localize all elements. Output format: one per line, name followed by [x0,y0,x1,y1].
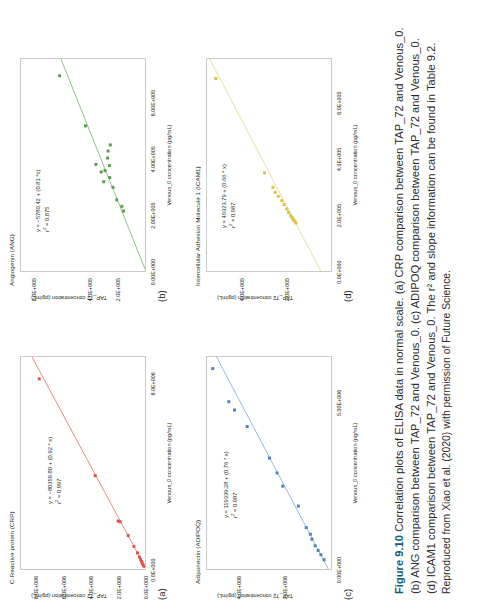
y-tick-label: 4.0E+005 [239,278,245,301]
panel-d: (d) Intercellular Adhesion Molecule 1 (I… [192,6,378,302]
data-point [323,558,326,561]
data-point [297,505,300,508]
panel-a-equation-block: y = −80359.80 + (0.92 * x) r2 = 0.997 [46,437,64,504]
panel-b-r2: r2 = 0.875 [42,170,51,232]
data-point [211,367,214,370]
data-point [108,176,111,179]
data-point [84,124,87,127]
data-point [276,471,279,474]
data-point [309,533,312,536]
data-point [246,425,249,428]
panel-b-x-axis-title: Venous_0 concentration (pg/mL) [166,58,172,272]
panel-c-r2: r2 = 0.987 [230,451,239,518]
panel-c-x-ticks: 0.00E+0005.00E+006 [334,356,348,570]
panel-d-x-ticks: 0.0E+0002.0E+0054.0E+0056.0E+005 [334,58,348,272]
x-tick-label: 2.0E+005 [336,192,342,240]
data-point [112,186,115,189]
panel-a-x-ticks: 0.0E+0008.0E+006 [148,356,162,570]
x-tick-label: 0.00E+000 [336,546,342,594]
data-point [272,186,275,189]
figure-number: Figure 9.10 [393,535,405,594]
data-point [58,74,61,77]
panel-b-plot-area [20,58,146,272]
panel-a-scatter-svg [21,357,145,569]
panel-c-equation-block: y = 119339.28 + (0.76 * x) r2 = 0.987 [222,451,240,518]
data-point [305,526,308,529]
data-point [289,214,292,217]
data-point [108,164,111,167]
y-tick-label: 8.0E+006 [33,576,39,599]
data-point [132,545,135,548]
panel-c-equation: y = 119339.28 + (0.76 * x) [222,451,230,518]
data-point [127,534,130,537]
y-tick-label: 4.0E+006 [88,576,94,599]
caption-line-2: (d) ICAM1 comparison between TAP_72 and … [424,10,440,594]
data-point [117,520,120,523]
caption-text-0: Correlation plots of ELISA data in norma… [393,27,405,531]
panel-d-r2: r2 = 0.987 [228,164,237,228]
data-point [94,474,97,477]
data-point [319,553,322,556]
data-point [94,163,97,166]
panel-a-x-axis-title: Venous_0 concentration (pg/mL) [166,356,172,570]
y-tick-label: 2.0E+006 [282,576,288,599]
data-point [115,198,118,201]
panel-a-equation: y = −80359.80 + (0.92 * x) [46,437,54,504]
data-point [107,150,110,153]
data-point [280,199,283,202]
panel-b-x-ticks: 0.00E+0002.00E+0054.00E+0056.00E+005 [148,58,162,272]
panel-d-x-axis-title: Venous_0 concentration (pg/mL) [352,58,358,272]
y-tick-label: 4.0E+005 [87,278,93,301]
data-point [310,538,313,541]
data-point [104,169,107,172]
data-point [283,203,286,206]
data-point [268,457,271,460]
panel-c-y-ticks: 4.0E+0062.0E+006 [206,572,332,608]
panel-a-letter: (a) [156,588,167,600]
panel-b: (b) Angiogenin (ANG) TAP_72 concentratio… [6,6,192,302]
data-point [214,77,217,80]
panel-b-scatter-svg [21,59,145,271]
panel-c-title: Adiponectin (ADIPOQ) [194,520,201,584]
panel-b-letter: (b) [156,290,167,302]
x-tick-label: 0.0E+000 [336,248,342,296]
data-point [136,551,139,554]
panel-d-title: Intercellular Adhesion Molecule 1 (ICAM1… [194,166,201,286]
data-point [263,171,266,174]
y-tick-label: 2.0E+006 [116,576,122,599]
caption-credit: Reproduced from Xiao et al. (2020) with … [440,10,455,594]
y-tick-label: 2.0E+005 [115,278,121,301]
y-tick-label: 8.0E+005 [31,278,37,301]
data-point [109,143,112,146]
data-point [317,549,320,552]
x-tick-label: 6.0E+005 [336,79,342,127]
panel-a-r2: r2 = 0.997 [54,437,63,504]
data-point [285,208,288,211]
y-tick-label: 0.0E+000 [143,576,149,599]
figure-page: (a) C-Reactive protein (CRP) TAP_72 conc… [0,0,496,608]
x-tick-label: 4.00E+005 [150,135,156,183]
data-point [38,377,41,380]
data-point [102,180,105,183]
regression-line [61,59,145,271]
data-point [106,157,109,160]
panel-a-plot-area [20,356,146,570]
panel-d-y-ticks: 4.0E+0052.0E+005 [206,274,332,332]
panel-b-equation-block: y = −5780.42 + (0.81 *x) r2 = 0.875 [34,170,52,232]
caption-line-0: Figure 9.10 Correlation plots of ELISA d… [392,10,408,594]
x-tick-label: 5.00E+006 [336,379,342,427]
panel-b-title: Angiogenin (ANG) [8,234,15,286]
figure-caption: Figure 9.10 Correlation plots of ELISA d… [392,10,454,594]
x-tick-label: 0.0E+000 [150,546,156,594]
panel-d-equation: y = 46323.79 + (0.66 * x) [220,164,228,228]
data-point [314,544,317,547]
panel-a-title: C-Reactive protein (CRP) [8,511,15,584]
data-point [233,409,236,412]
x-tick-label: 4.0E+005 [336,135,342,183]
x-tick-label: 8.0E+006 [150,360,156,408]
y-tick-label: 4.0E+006 [236,576,242,599]
panel-c-letter: (c) [342,589,353,600]
panel-d-letter: (d) [342,290,353,302]
panel-b-equation: y = −5780.42 + (0.81 *x) [34,170,42,232]
data-point [120,205,123,208]
